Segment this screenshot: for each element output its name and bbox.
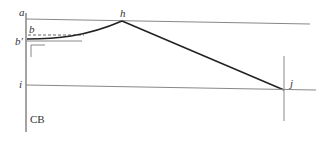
- label-h: h: [120, 7, 126, 19]
- line-h-to-j: [122, 21, 284, 90]
- label-a: a: [19, 6, 25, 18]
- l-bracket: [31, 45, 45, 57]
- diagram-canvas: a h b b′ i j CB: [0, 0, 331, 143]
- label-j: j: [288, 77, 293, 89]
- label-cb: CB: [30, 113, 45, 125]
- curve-b-to-h: [27, 21, 122, 39]
- top-line-a: [26, 19, 310, 24]
- label-b-prime: b′: [15, 35, 24, 47]
- label-i: i: [19, 78, 22, 90]
- label-b: b: [29, 23, 35, 35]
